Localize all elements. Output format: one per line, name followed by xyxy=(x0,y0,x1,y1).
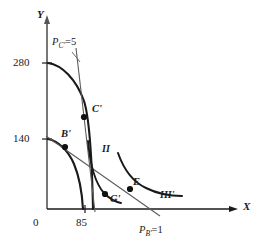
price-line-c xyxy=(76,48,95,212)
price-label-b: PB'=1 xyxy=(139,225,163,238)
origin-label: 0 xyxy=(33,217,39,228)
x-axis-arrowhead xyxy=(229,206,238,212)
point-label-E: E xyxy=(133,177,140,188)
price-c-leader xyxy=(72,52,80,62)
point-label-C: C' xyxy=(92,104,102,115)
point-label-B: B' xyxy=(61,129,71,140)
x-axis-label: X xyxy=(243,201,250,212)
point-label-G: G' xyxy=(110,194,121,205)
point-C-marker xyxy=(81,114,87,120)
price-c-value: 5 xyxy=(71,36,76,47)
point-G-marker xyxy=(102,191,108,197)
y-tick-label-140: 140 xyxy=(13,133,30,144)
y-tick-label-280: 280 xyxy=(13,57,30,68)
x-tick-label-85: 85 xyxy=(76,217,87,228)
y-axis-label: Y xyxy=(37,9,44,20)
price-label-c: PC'=5 xyxy=(52,37,76,50)
price-b-value: 1 xyxy=(158,224,163,235)
point-B-marker xyxy=(62,144,68,150)
y-axis-arrowhead xyxy=(44,15,50,24)
curve-label-ii: II xyxy=(102,144,110,154)
ppf-diagram xyxy=(0,0,272,248)
curve-label-iii: III' xyxy=(160,190,174,200)
